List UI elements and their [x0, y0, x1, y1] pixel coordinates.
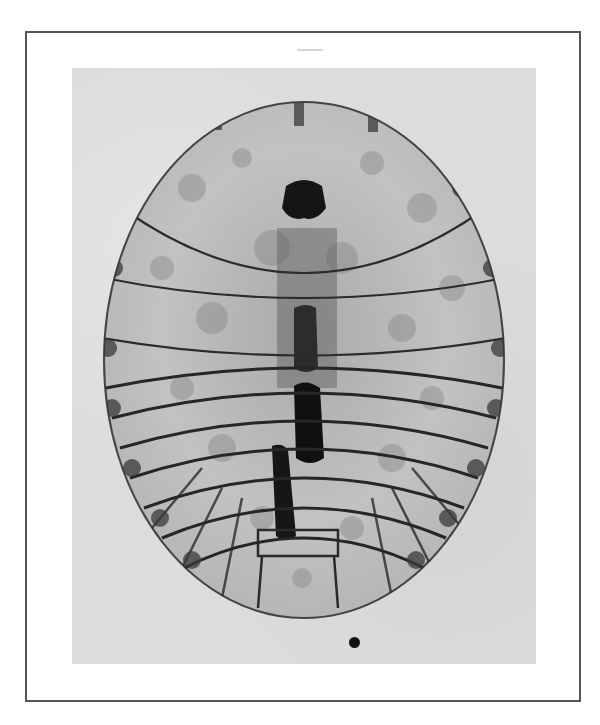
specimen-illustration	[72, 68, 536, 664]
specimen-photo	[72, 68, 536, 664]
scale-mark	[297, 49, 323, 51]
specimen-dot	[349, 637, 360, 648]
